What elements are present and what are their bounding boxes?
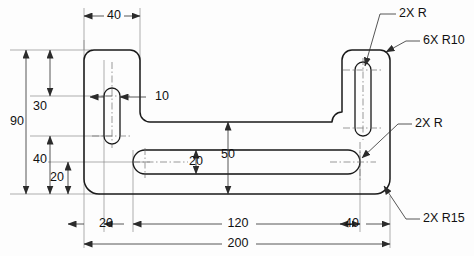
dim-label-height-overall-90: 90 [10,114,24,128]
extension-lines-group [10,8,390,248]
note-label-slot-radius-top: 2X R [399,6,427,20]
dim-label-top-width-40: 40 [107,8,121,22]
dim-label-bottom-left-20: 20 [99,216,113,230]
dim-label-height-20: 20 [50,170,64,184]
note-label-slot-radius-mid: 2X R [415,116,443,130]
horizontal-center-slot [133,150,360,174]
part-outline-group [84,50,390,194]
leader-r15 [384,186,406,219]
dim-label-bottom-overall-200: 200 [228,236,249,250]
dim-label-bottom-mid-120: 120 [228,216,249,230]
leader-2xr-mid [362,124,398,158]
dim-label-slot-height-20: 20 [189,154,203,168]
radius-notes-group: 2X R 6X R10 2X R 2X R15 [399,6,465,225]
dim-label-height-40: 40 [33,152,47,166]
note-label-corner-radius-r10: 6X R10 [423,33,465,47]
bracket-outline [84,50,390,194]
leader-r10 [386,41,406,52]
dim-label-web-height-50: 50 [221,147,235,161]
note-label-corner-radius-r15: 2X R15 [423,211,465,225]
slots-group [104,62,371,174]
center-lines-group [92,58,383,182]
cad-drawing-svg: 40 10 90 30 40 20 20 50 20 120 40 200 2X… [0,0,474,256]
leader-2xr-top [365,14,380,66]
dim-label-height-30: 30 [33,99,47,113]
dim-label-bottom-right-40: 40 [345,216,359,230]
dimension-text-group: 40 10 90 30 40 20 20 50 20 120 40 200 [10,8,359,250]
dim-label-slot-width-10: 10 [155,89,169,103]
engineering-drawing-canvas: 40 10 90 30 40 20 20 50 20 120 40 200 2X… [0,0,474,256]
